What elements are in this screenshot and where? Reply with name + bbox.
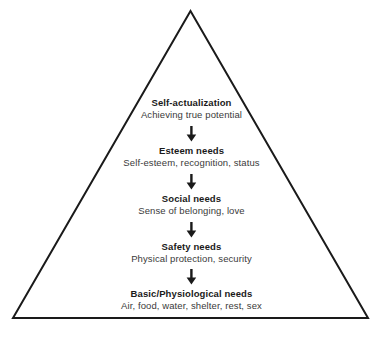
- level-title: Esteem needs: [0, 145, 383, 157]
- down-arrow-icon: [0, 126, 383, 142]
- level-social-needs: Social needs Sense of belonging, love: [0, 193, 383, 217]
- level-title: Social needs: [0, 193, 383, 205]
- level-subtitle: Achieving true potential: [0, 109, 383, 121]
- level-title: Safety needs: [0, 241, 383, 253]
- level-subtitle: Sense of belonging, love: [0, 205, 383, 217]
- level-subtitle: Physical protection, security: [0, 253, 383, 265]
- maslow-hierarchy-diagram: Self-actualization Achieving true potent…: [0, 0, 383, 338]
- down-arrow-icon: [0, 222, 383, 238]
- level-self-actualization: Self-actualization Achieving true potent…: [0, 97, 383, 121]
- level-basic-physiological-needs: Basic/Physiological needs Air, food, wat…: [0, 288, 383, 312]
- level-esteem-needs: Esteem needs Self-esteem, recognition, s…: [0, 145, 383, 169]
- down-arrow-icon: [0, 174, 383, 190]
- down-arrow-icon: [0, 269, 383, 285]
- scan-artifact: [8, 327, 198, 334]
- level-subtitle: Self-esteem, recognition, status: [0, 157, 383, 169]
- level-subtitle: Air, food, water, shelter, rest, sex: [0, 300, 383, 312]
- level-safety-needs: Safety needs Physical protection, securi…: [0, 241, 383, 265]
- hierarchy-levels: Self-actualization Achieving true potent…: [0, 0, 383, 338]
- level-title: Basic/Physiological needs: [0, 288, 383, 300]
- level-title: Self-actualization: [0, 97, 383, 109]
